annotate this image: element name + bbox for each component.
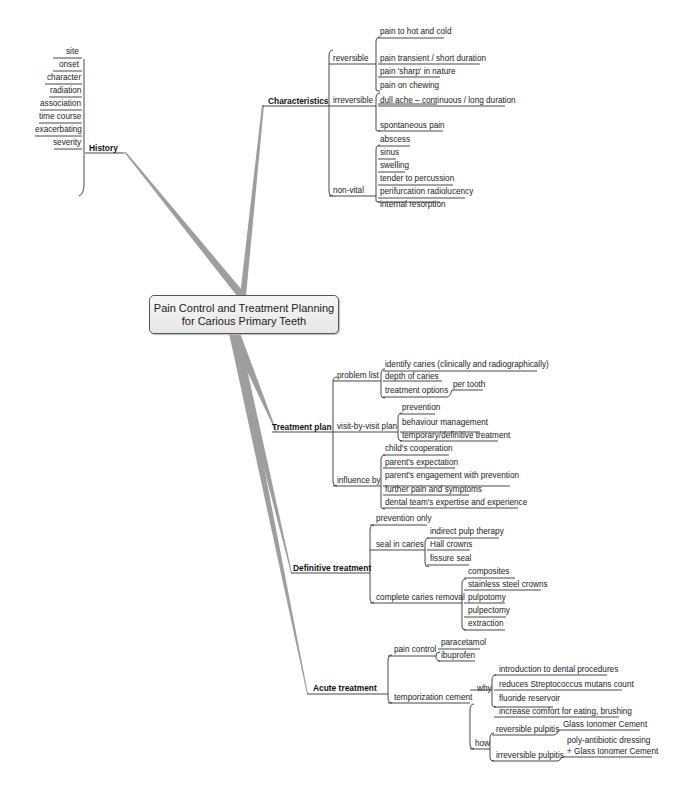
why-item[interactable]: fluoride reservoir xyxy=(499,694,560,704)
visit-plan-item[interactable]: temporary/definitive treatment xyxy=(402,431,510,441)
non-vital-item[interactable]: perifurcation radiolucency xyxy=(380,187,473,197)
removal-item[interactable]: composites xyxy=(468,567,509,577)
history-item[interactable]: character xyxy=(47,73,81,83)
reversible-pulpitis-value[interactable]: Glass Ionomer Cement xyxy=(563,720,647,730)
reversible-pulpitis-node[interactable]: reversible pulpitis xyxy=(496,725,559,735)
irreversible-item[interactable]: dull ache – continuous / long duration xyxy=(380,96,516,106)
why-node[interactable]: why xyxy=(477,684,492,694)
branch-lines xyxy=(35,37,652,761)
influence-item[interactable]: child's cooperation xyxy=(385,444,453,454)
prevention-only-node[interactable]: prevention only xyxy=(376,514,432,524)
removal-item[interactable]: pulpectomy xyxy=(468,606,510,616)
pain-control-item[interactable]: paracetamol xyxy=(441,638,486,648)
visit-plan-item[interactable]: behaviour management xyxy=(402,418,488,428)
pain-control-node[interactable]: pain control xyxy=(394,645,436,655)
reversible-node[interactable]: reversible xyxy=(333,54,369,64)
visit-plan-node[interactable]: visit-by-visit plan xyxy=(337,422,397,432)
seal-in-caries-node[interactable]: seal in caries xyxy=(376,540,424,550)
influence-item[interactable]: parent's engagement with prevention xyxy=(385,471,519,481)
non-vital-item[interactable]: abscess xyxy=(380,135,410,145)
problem-list-node[interactable]: problem list xyxy=(337,371,379,381)
per-tooth-node[interactable]: per tooth xyxy=(453,380,485,390)
pain-control-item[interactable]: ibuprofen xyxy=(441,651,475,661)
seal-item[interactable]: indirect pulp therapy xyxy=(430,527,504,537)
central-topic[interactable]: Pain Control and Treatment Planning for … xyxy=(149,295,339,334)
definitive-treatment-branch[interactable]: Definitive treatment xyxy=(293,563,371,573)
influence-by-node[interactable]: influence by xyxy=(337,476,381,486)
seal-item[interactable]: Hall crowns xyxy=(430,540,472,550)
reversible-item[interactable]: pain to hot and cold xyxy=(380,27,451,37)
influence-item[interactable]: parent's expectation xyxy=(385,458,458,468)
how-node[interactable]: how xyxy=(475,739,490,749)
central-topic-line2: for Carious Primary Teeth xyxy=(182,315,307,328)
irreversible-item[interactable]: spontaneous pain xyxy=(380,121,445,131)
non-vital-item[interactable]: sinus xyxy=(380,148,399,158)
seal-item[interactable]: fissure seal xyxy=(430,554,471,564)
reversible-item[interactable]: pain transient / short duration xyxy=(380,54,486,64)
non-vital-node[interactable]: non-vital xyxy=(333,186,364,196)
central-topic-line1: Pain Control and Treatment Planning xyxy=(154,302,334,315)
reversible-item[interactable]: pain 'sharp' in nature xyxy=(380,67,456,77)
history-item[interactable]: exacerbating xyxy=(35,125,82,135)
complete-removal-node[interactable]: complete caries removal xyxy=(376,593,465,603)
history-item[interactable]: time course xyxy=(39,112,81,122)
history-item[interactable]: site xyxy=(66,47,79,57)
history-branch[interactable]: History xyxy=(89,143,118,153)
removal-item[interactable]: extraction xyxy=(468,619,504,629)
history-item[interactable]: onset xyxy=(59,60,79,70)
irreversible-item[interactable]: pain on chewing xyxy=(380,81,439,91)
irreversible-node[interactable]: irreversible xyxy=(333,96,373,106)
problem-list-item[interactable]: depth of caries xyxy=(385,372,439,382)
temporization-node[interactable]: temporization cement xyxy=(394,693,472,703)
history-item[interactable]: association xyxy=(40,99,81,109)
influence-item[interactable]: dental team's expertise and experience xyxy=(385,498,527,508)
irreversible-pulpitis-value-line2[interactable]: + Glass Ionomer Cement xyxy=(567,747,658,757)
removal-item[interactable]: stainless steel crowns xyxy=(468,580,548,590)
why-item[interactable]: reduces Streptococcus mutans count xyxy=(499,680,634,690)
acute-treatment-branch[interactable]: Acute treatment xyxy=(313,683,377,693)
visit-plan-item[interactable]: prevention xyxy=(402,403,440,413)
non-vital-item[interactable]: internal resorption xyxy=(380,200,446,210)
non-vital-item[interactable]: swelling xyxy=(380,161,409,171)
why-item[interactable]: introduction to dental procedures xyxy=(499,665,618,675)
treatment-plan-branch[interactable]: Treatment plan xyxy=(272,422,332,432)
trunk-branches xyxy=(124,105,308,694)
characteristics-branch[interactable]: Characteristics xyxy=(268,96,329,106)
non-vital-item[interactable]: tender to percussion xyxy=(380,174,454,184)
irreversible-pulpitis-node[interactable]: irreversible pulpitis xyxy=(496,751,564,761)
removal-item[interactable]: pulpotomy xyxy=(468,593,506,603)
irreversible-pulpitis-value-line1[interactable]: poly-antibiotic dressing xyxy=(567,736,650,746)
history-item[interactable]: radiation xyxy=(50,86,81,96)
problem-list-item[interactable]: identify caries (clinically and radiogra… xyxy=(385,360,549,370)
why-item[interactable]: increase comfort for eating, brushing xyxy=(499,707,632,717)
influence-item[interactable]: further pain and symptoms xyxy=(385,485,482,495)
history-item[interactable]: severity xyxy=(53,138,81,148)
problem-list-item[interactable]: treatment options xyxy=(385,386,448,396)
